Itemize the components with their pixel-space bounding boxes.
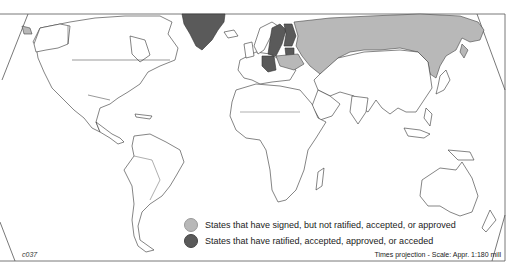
- new-guinea: [448, 150, 474, 160]
- new-zealand: [482, 210, 496, 232]
- philippines: [424, 108, 432, 126]
- greenland: [182, 14, 225, 50]
- uk: [244, 42, 254, 58]
- light-gray-circle-icon: [184, 218, 198, 232]
- dark-gray-circle-icon: [184, 234, 198, 248]
- madagascar: [316, 168, 324, 190]
- australia: [420, 162, 478, 216]
- sakhalin: [460, 44, 468, 58]
- iceland: [224, 30, 238, 38]
- finland: [284, 24, 296, 46]
- projection-note: Times projection - Scale: Appr. 1:180 mi…: [374, 251, 501, 258]
- legend-item-ratified: States that have ratified, accepted, app…: [184, 233, 456, 249]
- legend-item-signed: States that have signed, but not ratifie…: [184, 217, 456, 233]
- india: [350, 96, 368, 124]
- south-america: [124, 134, 184, 252]
- map-legend: States that have signed, but not ratifie…: [184, 217, 456, 249]
- map-code: c037: [22, 251, 37, 258]
- central-america: [96, 122, 124, 144]
- legend-label-signed: States that have signed, but not ratifie…: [205, 220, 456, 230]
- indonesia: [404, 128, 430, 138]
- chukotka: [22, 26, 32, 34]
- legend-label-ratified: States that have ratified, accepted, app…: [205, 236, 433, 246]
- africa: [230, 84, 326, 202]
- japan: [436, 70, 450, 94]
- cuba: [135, 114, 152, 119]
